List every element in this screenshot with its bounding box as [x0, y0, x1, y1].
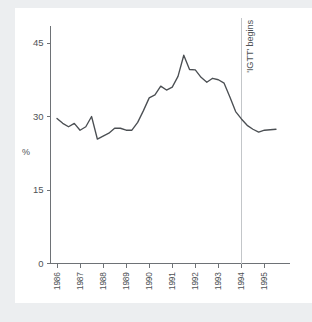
annotation-group: 'IGTT' begins	[241, 18, 255, 264]
x-tick-label: 1992	[191, 272, 200, 290]
x-tick-label: 1986	[53, 272, 62, 290]
x-tick-label: 1994	[237, 272, 246, 290]
x-axis: 1986198719881989199019911992199319941995	[51, 264, 291, 290]
x-tick-label: 1993	[214, 272, 223, 290]
series-line-share	[57, 55, 276, 139]
y-axis: 0153045	[33, 26, 51, 269]
x-tick-label: 1987	[76, 272, 85, 290]
x-tick-label: 1995	[260, 272, 269, 290]
x-tick-label: 1990	[145, 272, 154, 290]
x-tick-label: 1991	[168, 272, 177, 290]
x-tick-group: 1986198719881989199019911992199319941995	[53, 264, 269, 290]
x-tick-label: 1988	[99, 272, 108, 290]
y-tick-group: 0153045	[33, 37, 51, 269]
y-tick-label: 0	[38, 258, 43, 269]
annotation-label: 'IGTT' begins	[245, 20, 255, 73]
y-tick-label: 45	[33, 37, 44, 48]
y-tick-label: 15	[33, 184, 44, 195]
y-axis-title: %	[22, 147, 30, 157]
y-tick-label: 30	[33, 111, 44, 122]
x-tick-label: 1989	[122, 272, 131, 290]
chart-root: 0153045 19861987198819891990199119921993…	[0, 0, 312, 322]
line-chart: 0153045 19861987198819891990199119921993…	[0, 0, 312, 322]
